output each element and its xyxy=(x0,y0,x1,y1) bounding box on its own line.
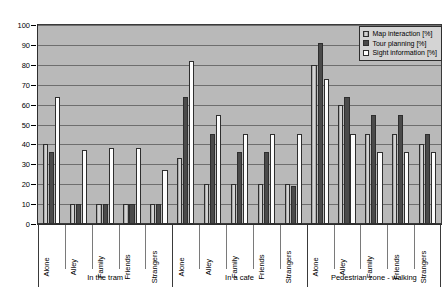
bar xyxy=(177,158,182,224)
bar xyxy=(210,134,215,224)
x-axis-categories: AloneAlleyFamilyFriendsStrangersAloneAll… xyxy=(38,225,441,299)
bar xyxy=(350,134,355,224)
y-axis-tick-mark xyxy=(31,184,36,185)
category-separator xyxy=(119,225,120,269)
legend-swatch xyxy=(363,50,369,56)
bar xyxy=(103,204,108,224)
x-axis-category: Alone xyxy=(172,225,199,269)
bar xyxy=(258,184,263,224)
bar xyxy=(162,170,167,224)
legend-label: Sight information [%] xyxy=(372,48,437,58)
bar xyxy=(431,152,436,224)
bar xyxy=(156,204,161,224)
bar xyxy=(49,152,54,224)
y-axis-tick-label: 100 xyxy=(17,21,30,30)
bar xyxy=(243,134,248,224)
bar xyxy=(365,134,370,224)
x-axis-category: Alone xyxy=(307,225,334,269)
bar xyxy=(237,152,242,224)
y-axis-tick-label: 90 xyxy=(22,40,30,49)
group-separator xyxy=(440,225,441,287)
x-axis-category: Strangers xyxy=(414,225,441,269)
x-axis-category: Family xyxy=(360,225,387,269)
legend-label: Tour planning [%] xyxy=(372,39,426,49)
y-axis-tick-mark xyxy=(31,224,36,225)
x-axis-category: Alone xyxy=(38,225,65,269)
legend-item: Tour planning [%] xyxy=(363,39,437,49)
bar xyxy=(123,204,128,224)
y-axis-tick-label: 10 xyxy=(22,200,30,209)
category-separator xyxy=(280,225,281,269)
y-axis-tick-mark xyxy=(31,65,36,66)
bar xyxy=(419,144,424,224)
x-axis-category: Strangers xyxy=(280,225,307,269)
x-axis-category: Alley xyxy=(65,225,92,269)
x-axis-category: Alley xyxy=(334,225,361,269)
bar xyxy=(318,43,323,224)
legend-item: Sight information [%] xyxy=(363,48,437,58)
y-axis-tick-label: 0 xyxy=(26,220,30,229)
category-separator xyxy=(360,225,361,269)
bar xyxy=(55,97,60,224)
x-axis-category: Friends xyxy=(387,225,414,269)
x-axis-group-label: In a cafe xyxy=(172,273,306,282)
y-axis-tick-label: 50 xyxy=(22,120,30,129)
x-axis-category: Alley xyxy=(199,225,226,269)
category-separator xyxy=(199,225,200,269)
bar xyxy=(344,97,349,224)
bar xyxy=(425,134,430,224)
legend-label: Map interaction [%] xyxy=(372,29,432,39)
bar xyxy=(183,97,188,224)
group-separator xyxy=(307,225,308,287)
bar xyxy=(129,204,134,224)
bar xyxy=(398,115,403,224)
bar xyxy=(404,152,409,224)
y-axis-tick-label: 70 xyxy=(22,80,30,89)
bar xyxy=(189,61,194,224)
bar xyxy=(204,184,209,224)
bar xyxy=(377,152,382,224)
bar xyxy=(338,105,343,224)
bar xyxy=(109,148,114,224)
y-axis-tick-label: 40 xyxy=(22,140,30,149)
bar xyxy=(297,134,302,224)
category-separator xyxy=(226,225,227,269)
category-separator xyxy=(145,225,146,269)
bar xyxy=(285,184,290,224)
y-axis-tick-mark xyxy=(31,164,36,165)
y-axis: 0102030405060708090100 xyxy=(0,0,37,232)
y-axis-tick-mark xyxy=(31,105,36,106)
y-axis-tick-label: 80 xyxy=(22,60,30,69)
bar xyxy=(231,184,236,224)
bar xyxy=(82,150,87,224)
group-separator xyxy=(172,225,173,287)
bar xyxy=(43,144,48,224)
x-axis-group-label: In the tram xyxy=(38,273,172,282)
x-axis-category: Strangers xyxy=(145,225,172,269)
legend-swatch xyxy=(363,31,369,37)
bar xyxy=(311,65,316,224)
bar xyxy=(70,204,75,224)
legend-item: Map interaction [%] xyxy=(363,29,437,39)
category-separator xyxy=(253,225,254,269)
y-axis-tick-label: 60 xyxy=(22,100,30,109)
y-axis-tick-mark xyxy=(31,144,36,145)
chart-legend: Map interaction [%]Tour planning [%]Sigh… xyxy=(359,26,442,61)
x-axis-category: Family xyxy=(92,225,119,269)
bar xyxy=(291,186,296,224)
bar xyxy=(76,204,81,224)
bar xyxy=(136,148,141,224)
y-axis-tick-mark xyxy=(31,25,36,26)
y-axis-tick-mark xyxy=(31,204,36,205)
group-separator xyxy=(38,225,39,287)
y-axis-tick-label: 30 xyxy=(22,160,30,169)
x-axis-category: Family xyxy=(226,225,253,269)
y-axis-tick-mark xyxy=(31,45,36,46)
x-axis-category: Friends xyxy=(253,225,280,269)
bar xyxy=(96,204,101,224)
bar xyxy=(324,79,329,224)
x-axis-category: Friends xyxy=(119,225,146,269)
y-axis-tick-label: 20 xyxy=(22,180,30,189)
category-separator xyxy=(92,225,93,269)
bar xyxy=(264,152,269,224)
